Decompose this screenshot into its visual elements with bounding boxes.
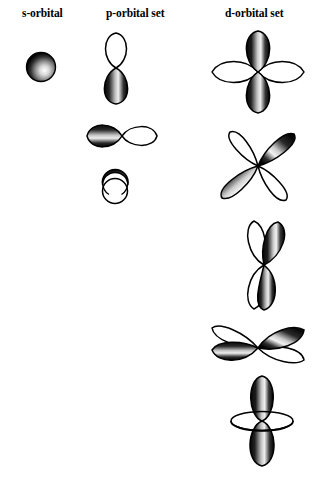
orbital-p-axial bbox=[98, 167, 134, 207]
d2-lobe-lower-right bbox=[258, 166, 287, 200]
orbital-p-horizontal bbox=[83, 118, 161, 154]
d2-lobe-lower-left bbox=[221, 166, 258, 199]
p-axial-lobe-front bbox=[103, 179, 128, 204]
orbital-d-cloverleaf-flattened bbox=[204, 314, 312, 372]
orbital-d-cloverleaf-diagonal bbox=[210, 124, 306, 208]
p-vertical-lobe-up bbox=[106, 33, 127, 68]
d2-lobe-upper-right bbox=[258, 133, 295, 166]
orbital-s-sphere bbox=[24, 50, 58, 84]
d3-lobe-front-up bbox=[263, 222, 285, 265]
d4-lobe-upper-right bbox=[258, 328, 304, 349]
d4-lobe-lower-left bbox=[212, 342, 258, 360]
orbital-d-cloverleaf-vertical-pair bbox=[222, 218, 302, 312]
d2-lobe-upper-left bbox=[229, 132, 258, 166]
column-header-d-orbital-set: d-orbital set bbox=[225, 7, 283, 19]
p-horizontal-lobe-left bbox=[87, 125, 122, 147]
p-vertical-lobe-down bbox=[104, 68, 127, 104]
s-sphere-body bbox=[27, 53, 56, 82]
orbital-diagram: s-orbital p-orbital set d-orbital set bbox=[0, 0, 323, 480]
column-header-s-orbital: s-orbital bbox=[22, 7, 63, 19]
orbital-p-vertical bbox=[96, 28, 136, 108]
orbital-d-cloverleaf-upright bbox=[208, 28, 308, 116]
column-header-p-orbital-set: p-orbital set bbox=[106, 7, 164, 19]
orbital-d-z-squared bbox=[216, 372, 308, 470]
p-horizontal-lobe-right bbox=[122, 127, 157, 146]
